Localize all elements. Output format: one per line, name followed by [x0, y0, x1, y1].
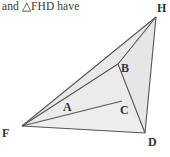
- vertex-label-A: A: [63, 101, 72, 113]
- vertex-label-D: D: [148, 136, 157, 148]
- vertex-label-H: H: [157, 2, 166, 14]
- vertex-label-F: F: [2, 127, 9, 139]
- triangle-fhd-diagram: [0, 0, 170, 157]
- vertex-label-C: C: [120, 104, 129, 116]
- figure-page: and △FHD have H F D A B C: [0, 0, 170, 157]
- vertex-label-B: B: [121, 62, 129, 74]
